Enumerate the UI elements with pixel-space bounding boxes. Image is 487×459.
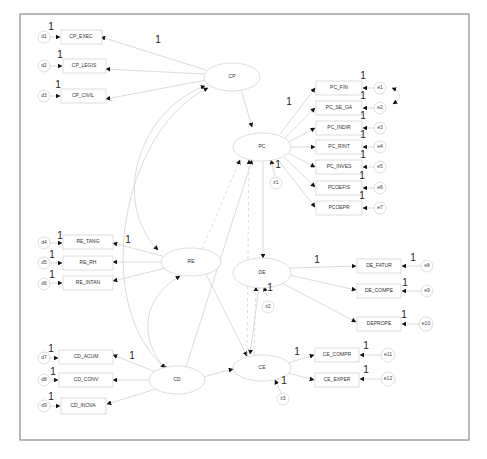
- weight-e4: 1: [360, 129, 366, 140]
- node-cp-legis[interactable]: CP_LEGIS: [63, 59, 106, 73]
- node-de-fatur[interactable]: DE_FATUR: [357, 259, 401, 273]
- sem-path-diagram: CP_EXEC CP_LEGIS CP_CIVIL PC_FIN PC_SE_G…: [0, 0, 487, 459]
- latent-cp[interactable]: CP: [204, 63, 260, 91]
- weight-d4: 1: [57, 230, 63, 241]
- node-re-tang[interactable]: RE_TANG: [63, 235, 113, 249]
- svg-text:e5: e5: [377, 163, 383, 169]
- svg-text:d2: d2: [41, 62, 47, 68]
- latent-re[interactable]: RE: [161, 248, 221, 276]
- svg-text:PCOEFIS: PCOEFIS: [328, 184, 351, 190]
- latent-pc[interactable]: PC: [233, 133, 291, 161]
- weight-ce-compr: 1: [294, 346, 300, 357]
- svg-text:d9: d9: [41, 402, 47, 408]
- node-cp-civil[interactable]: CP_CIVIL: [61, 89, 106, 103]
- node-pcoepr[interactable]: PCOEPR: [316, 201, 362, 215]
- svg-text:CD_INOVA: CD_INOVA: [70, 402, 96, 408]
- svg-text:e2: e2: [377, 104, 383, 110]
- weight-z2: 1: [267, 282, 273, 293]
- node-cp-exec[interactable]: CP_EXEC: [61, 30, 102, 44]
- node-pc-rint[interactable]: PC_RINT: [316, 140, 362, 154]
- node-cd-inova[interactable]: CD_INOVA: [61, 398, 106, 414]
- weight-e2: 1: [360, 90, 366, 101]
- weight-e10: 1: [401, 309, 407, 320]
- weight-pc-fin: 1: [286, 96, 292, 107]
- error-e11[interactable]: e11: [381, 348, 395, 362]
- weight-z1: 1: [275, 159, 281, 170]
- node-ce-compr[interactable]: CE_COMPR: [315, 348, 359, 362]
- disturbance-z2[interactable]: z2: [262, 301, 274, 313]
- weight-re-tang: 1: [125, 234, 131, 245]
- svg-text:RE_INTAN: RE_INTAN: [76, 279, 101, 285]
- node-ce-exper[interactable]: CE_EXPER: [315, 373, 359, 387]
- svg-text:PC: PC: [259, 143, 266, 149]
- weight-cp-exec: 1: [155, 34, 161, 45]
- svg-text:e6: e6: [377, 184, 383, 190]
- svg-text:e1: e1: [377, 84, 383, 90]
- latent-de[interactable]: DE: [233, 258, 291, 288]
- svg-text:PC_INDIR: PC_INDIR: [327, 124, 351, 130]
- svg-text:CP_CIVIL: CP_CIVIL: [72, 92, 94, 98]
- weight-e8: 1: [410, 252, 416, 263]
- error-d1[interactable]: d1: [38, 31, 50, 43]
- svg-text:d8: d8: [41, 376, 47, 382]
- svg-text:d6: d6: [41, 280, 47, 286]
- svg-text:CE: CE: [259, 364, 267, 370]
- error-e7[interactable]: e7: [374, 202, 386, 214]
- svg-text:d1: d1: [41, 33, 47, 39]
- svg-text:d5: d5: [41, 259, 47, 265]
- disturbance-z1[interactable]: z1: [270, 177, 282, 189]
- weight-de-fatur: 1: [314, 254, 320, 265]
- error-e8[interactable]: e8: [421, 260, 433, 272]
- svg-text:CP: CP: [229, 73, 237, 79]
- svg-text:DE_COMPE: DE_COMPE: [365, 287, 394, 293]
- error-d5[interactable]: d5: [38, 257, 50, 269]
- weight-e3: 1: [360, 110, 366, 121]
- node-pc-indir[interactable]: PC_INDIR: [316, 121, 362, 135]
- svg-text:RE: RE: [188, 258, 196, 264]
- svg-text:CE_EXPER: CE_EXPER: [324, 376, 351, 382]
- latent-cd[interactable]: CD: [149, 366, 205, 394]
- error-d6[interactable]: d6: [38, 278, 50, 290]
- error-d2[interactable]: d2: [38, 60, 50, 72]
- error-e2[interactable]: e2: [374, 102, 386, 114]
- svg-text:e11: e11: [384, 351, 392, 357]
- node-pc-inves[interactable]: PC_INVES: [316, 160, 362, 174]
- error-d3[interactable]: d3: [38, 90, 50, 102]
- svg-text:e3: e3: [377, 124, 383, 130]
- node-pc-fin[interactable]: PC_FIN: [316, 81, 362, 95]
- weight-d9: 1: [48, 391, 54, 402]
- error-d8[interactable]: d8: [38, 374, 50, 386]
- error-e4[interactable]: e4: [374, 141, 386, 153]
- error-d4[interactable]: d4: [38, 237, 50, 249]
- weight-e7: 1: [359, 190, 365, 201]
- weight-e11: 1: [363, 340, 369, 351]
- disturbance-z3[interactable]: z3: [277, 393, 289, 405]
- error-e5[interactable]: e5: [374, 161, 386, 173]
- svg-text:CD: CD: [173, 376, 181, 382]
- svg-text:z3: z3: [280, 395, 286, 401]
- svg-text:CD_ACUM: CD_ACUM: [74, 353, 99, 359]
- node-cd-conv[interactable]: CD_CONV: [59, 373, 113, 387]
- weight-d3: 1: [55, 79, 61, 90]
- node-re-intan[interactable]: RE_INTAN: [63, 276, 113, 290]
- svg-text:e7: e7: [377, 204, 383, 210]
- weight-cd-acum: 1: [129, 350, 135, 361]
- node-de-compe[interactable]: DE_COMPE: [357, 284, 401, 298]
- node-deprope[interactable]: DEPROPE: [357, 317, 401, 331]
- svg-text:DE_FATUR: DE_FATUR: [366, 262, 392, 268]
- node-pc-se-ga[interactable]: PC_SE_GA: [316, 101, 362, 115]
- error-e3[interactable]: e3: [374, 122, 386, 134]
- node-pcoefis[interactable]: PCOEFIS: [316, 181, 362, 195]
- svg-text:e10: e10: [422, 320, 431, 326]
- svg-text:DE: DE: [259, 269, 267, 275]
- node-cd-acum[interactable]: CD_ACUM: [59, 350, 113, 364]
- error-e10[interactable]: e10: [419, 317, 433, 331]
- error-e1[interactable]: e1: [374, 82, 386, 94]
- svg-text:e8: e8: [424, 262, 430, 268]
- svg-text:PCOEPR: PCOEPR: [328, 204, 350, 210]
- error-e6[interactable]: e6: [374, 182, 386, 194]
- node-re-rh[interactable]: RE_RH: [63, 256, 113, 270]
- error-e9[interactable]: e9: [421, 285, 433, 297]
- error-e12[interactable]: e12: [381, 372, 395, 386]
- svg-text:CE_COMPR: CE_COMPR: [323, 351, 352, 357]
